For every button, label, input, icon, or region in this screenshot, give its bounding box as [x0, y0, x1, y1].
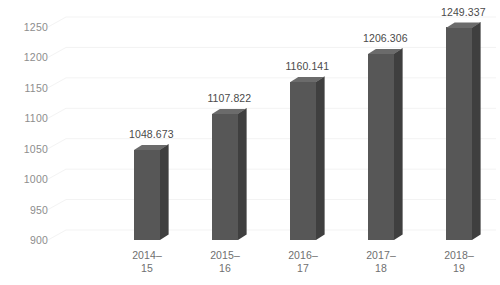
bar-value-label: 1107.822: [194, 92, 264, 104]
bar-side-face: [160, 144, 169, 240]
bar-side-face: [472, 22, 481, 240]
x-axis-category-label: 2014–15: [112, 249, 182, 275]
bar-front-face: [134, 150, 160, 240]
bar-front-face: [446, 27, 472, 240]
x-axis-category-label-line: 17: [268, 262, 338, 275]
x-axis-category-label-line: 2017–: [346, 249, 416, 262]
plot-area: 1048.6732014–151107.8222015–161160.14120…: [0, 0, 500, 285]
bar-front-face: [368, 54, 394, 240]
x-axis-category-label-line: 16: [190, 262, 260, 275]
bar[interactable]: [134, 150, 160, 240]
x-axis-category-label-line: 18: [346, 262, 416, 275]
x-axis-category-label: 2016–17: [268, 249, 338, 275]
x-axis-category-label-line: 2014–: [112, 249, 182, 262]
bar-value-label: 1160.141: [272, 60, 342, 72]
bar-chart: 900950100010501100115012001250 1048.6732…: [0, 0, 500, 285]
x-axis-category-label: 2017–18: [346, 249, 416, 275]
bar[interactable]: [446, 27, 472, 240]
x-axis-category-label-line: 2015–: [190, 249, 260, 262]
x-axis-category-label-line: 15: [112, 262, 182, 275]
bar[interactable]: [290, 82, 316, 240]
x-axis-category-label-line: 2016–: [268, 249, 338, 262]
bar-front-face: [290, 82, 316, 240]
x-axis-category-label-line: 19: [424, 262, 494, 275]
x-axis-category-label-line: 2018–: [424, 249, 494, 262]
bar[interactable]: [368, 54, 394, 240]
x-axis-category-label: 2018–19: [424, 249, 494, 275]
bar-side-face: [316, 76, 325, 240]
x-axis-category-label: 2015–16: [190, 249, 260, 275]
bar-side-face: [238, 108, 247, 240]
bar-value-label: 1048.673: [116, 128, 186, 140]
bar-front-face: [212, 114, 238, 240]
bar-side-face: [394, 48, 403, 240]
bar[interactable]: [212, 114, 238, 240]
bar-value-label: 1206.306: [350, 32, 420, 44]
bar-value-label: 1249.337: [428, 6, 498, 18]
